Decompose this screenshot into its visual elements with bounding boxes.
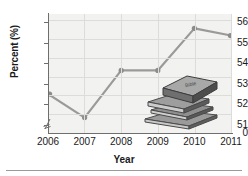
y-tick-mark: [44, 104, 48, 105]
y-tick-mark: [44, 84, 48, 85]
stack-of-books-illustration: Bible: [143, 72, 219, 130]
y-tick-label: 56: [204, 17, 248, 27]
gridline-vertical: [84, 14, 85, 133]
y-tick-label: 54: [204, 58, 248, 68]
gridline-vertical: [121, 14, 122, 133]
gridline-vertical: [231, 14, 232, 133]
line-chart: Percent (%) 5152535455560 20062007200820…: [0, 0, 248, 176]
y-tick-label: 55: [204, 38, 248, 48]
y-axis-title: Percent (%): [9, 12, 20, 92]
y-axis-line: [48, 13, 49, 134]
bottom-divider: [6, 170, 242, 171]
x-axis-title: Year: [0, 154, 248, 165]
x-tick-label: 2011: [209, 136, 248, 147]
y-tick-mark: [44, 63, 48, 64]
axis-break-icon: [43, 118, 54, 130]
y-tick-mark: [44, 43, 48, 44]
y-tick-mark: [44, 22, 48, 23]
